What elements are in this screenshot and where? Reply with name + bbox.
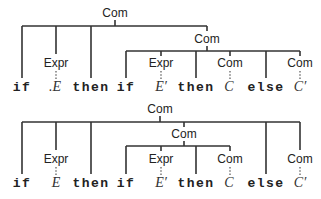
top-parse-tree: Com Expr Com Expr Com Com if .E then if [13,6,313,95]
bottom-token-then2: then [177,176,214,191]
bottom-token-c: C [224,175,234,190]
parse-tree-diagram: Com Expr Com Expr Com Com if .E then if [0,0,321,199]
top-root-com-label: Com [102,6,127,20]
top-expr1-label: Expr [44,56,69,70]
top-token-c: C [224,79,234,94]
top-token-then1: then [72,80,109,95]
bottom-token-e2: E′ [154,175,168,190]
top-comc-label: Com [217,56,242,70]
top-token-if2: if [117,80,136,95]
bottom-root-com-label: Com [147,102,172,116]
top-token-if1: if [13,80,32,95]
top-comc2-label: Com [287,56,312,70]
bottom-token-if2: if [117,176,136,191]
bottom-token-else: else [247,176,284,191]
top-token-c2: C′ [294,79,307,94]
bottom-token-then1: then [72,176,109,191]
bottom-comc2-label: Com [287,152,312,166]
bottom-comc-label: Com [217,152,242,166]
top-subcom-label: Com [194,32,219,46]
bottom-expr2-label: Expr [149,152,174,166]
bottom-token-e1: E [51,175,61,190]
bottom-subcom-label: Com [171,127,196,141]
bottom-parse-tree: Com Expr Com Expr Com Com if E then if E… [13,102,313,191]
top-token-else: else [247,80,284,95]
top-token-e2: E′ [154,79,168,94]
top-token-then2: then [177,80,214,95]
top-token-e1: .E [49,79,62,94]
bottom-token-if1: if [13,176,32,191]
bottom-token-c2: C′ [294,175,307,190]
bottom-expr1-label: Expr [44,152,69,166]
top-expr2-label: Expr [149,56,174,70]
